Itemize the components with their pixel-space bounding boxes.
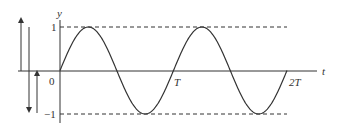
y-max-label: 1	[51, 21, 57, 33]
tick-label-T: T	[174, 76, 181, 88]
t-axis-label: t	[322, 65, 326, 77]
sine-wave-diagram: y t 0 1 −1 T 2T	[0, 0, 341, 130]
tick-label-2T: 2T	[289, 76, 302, 88]
y-min-label: −1	[44, 108, 56, 120]
y-axis-label: y	[56, 7, 62, 19]
origin-label: 0	[49, 75, 55, 87]
